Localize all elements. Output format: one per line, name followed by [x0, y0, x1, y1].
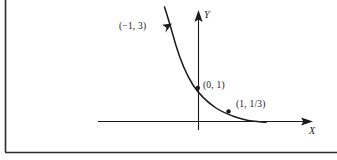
exponential-curve-figure: (−1, 3) (0, 1) (1, 1/3) Y X [0, 0, 337, 160]
point-marker-0-1 [196, 86, 200, 90]
point-marker-1-third [226, 109, 230, 113]
point-label-0-1: (0, 1) [203, 80, 225, 90]
point-label-1-third: (1, 1/3) [236, 99, 266, 109]
x-axis-label: X [309, 125, 315, 136]
y-axis-label: Y [204, 9, 210, 20]
point-label-neg1-3: (−1, 3) [119, 21, 146, 31]
figure-canvas [0, 0, 337, 160]
